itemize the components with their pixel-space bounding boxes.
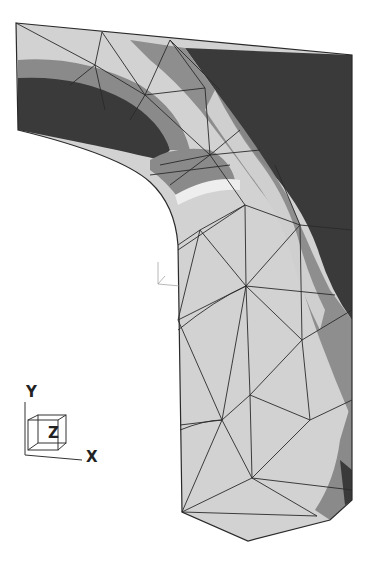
mesh-plot <box>0 0 384 564</box>
axis-label-x: X <box>86 448 98 466</box>
axis-label-y: Y <box>26 383 37 401</box>
origin-marker-icon <box>158 262 180 286</box>
contour-regions <box>0 0 384 564</box>
axis-label-z: Z <box>48 424 59 442</box>
